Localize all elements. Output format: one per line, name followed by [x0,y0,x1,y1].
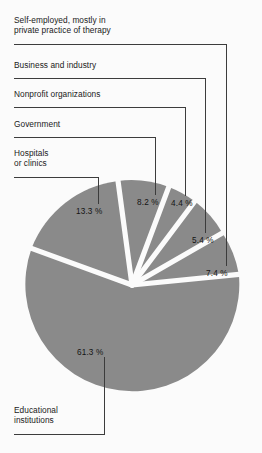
pie-value-label-hospitals: 13.3 % [76,207,102,216]
pie-value-label-self-employed: 7.4 % [206,269,228,278]
pie-value-label-government: 8.2 % [137,198,159,207]
callout-label-government: Government [14,119,60,129]
pie-value-label-nonprofit: 4.4 % [171,199,193,208]
pie-value-label-educational: 61.3 % [77,348,103,357]
callout-label-nonprofit: Nonprofit organizations [14,89,100,99]
callout-label-business: Business and industry [14,60,96,70]
callout-label-educational: Educational institutions [14,405,58,425]
callout-label-hospitals: Hospitals or clinics [14,148,49,168]
pie-chart-figure: Self-employed, mostly in private practic… [0,0,262,453]
pie-value-label-business: 5.4 % [192,236,214,245]
callout-label-self-employed: Self-employed, mostly in private practic… [14,15,111,35]
